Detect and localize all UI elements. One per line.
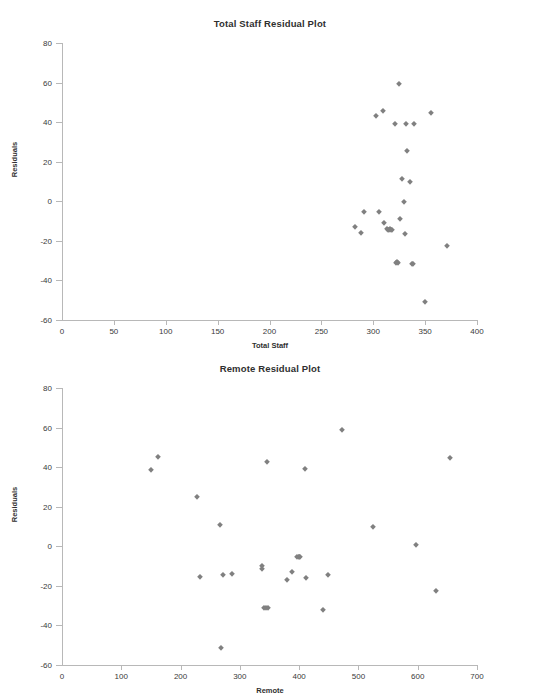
y-axis-tick-label: -40	[26, 621, 52, 630]
scatter-point	[380, 108, 386, 114]
scatter-point	[289, 569, 295, 575]
scatter-point	[396, 81, 402, 87]
scatter-point	[155, 454, 161, 460]
scatter-point	[352, 224, 358, 230]
plot-area	[62, 43, 477, 320]
scatter-point	[397, 216, 403, 222]
y-axis-tick	[56, 122, 62, 123]
x-axis-tick-label: 350	[405, 327, 445, 336]
x-axis-tick	[373, 320, 374, 325]
x-axis-tick-label: 500	[338, 672, 378, 681]
y-axis-tick	[56, 665, 62, 666]
x-axis-tick-label: 100	[101, 672, 141, 681]
chart-remote-residual-plot: Remote Residual Plot Residuals Remote -6…	[0, 345, 540, 690]
y-axis-tick	[56, 467, 62, 468]
y-axis-tick	[56, 586, 62, 587]
x-axis-tick-label: 300	[353, 327, 393, 336]
scatter-point	[220, 572, 226, 578]
x-axis-tick	[477, 320, 478, 325]
y-axis-tick	[56, 43, 62, 44]
x-axis-tick	[299, 665, 300, 670]
y-axis-tick	[56, 625, 62, 626]
scatter-point	[413, 542, 419, 548]
scatter-point	[229, 571, 235, 577]
scatter-point	[265, 605, 271, 611]
x-axis-tick	[181, 665, 182, 670]
scatter-point	[325, 572, 331, 578]
scatter-point	[377, 209, 383, 215]
x-axis-tick	[240, 665, 241, 670]
x-axis-tick-label: 400	[457, 327, 497, 336]
y-axis-tick	[56, 162, 62, 163]
scatter-point	[219, 645, 225, 651]
scatter-point	[381, 220, 387, 226]
scatter-point	[148, 467, 154, 473]
x-axis-tick-label: 250	[301, 327, 341, 336]
y-axis-tick-label: 60	[26, 78, 52, 87]
scatter-point	[433, 588, 439, 594]
x-axis-tick	[218, 320, 219, 325]
y-axis-title: Residuals	[10, 130, 19, 190]
y-axis-tick-label: -60	[26, 316, 52, 325]
y-axis-tick-label: 40	[26, 463, 52, 472]
scatter-point	[264, 459, 270, 465]
scatter-point	[411, 121, 417, 127]
scatter-point	[402, 231, 408, 237]
x-axis-tick	[358, 665, 359, 670]
x-axis-tick	[114, 320, 115, 325]
scatter-point	[422, 299, 428, 305]
x-axis-tick	[121, 665, 122, 670]
y-axis-tick	[56, 546, 62, 547]
chart-total-staff-residual-plot: Total Staff Residual Plot Residuals Tota…	[0, 0, 540, 345]
y-axis-tick-label: 0	[26, 542, 52, 551]
scatter-point	[303, 575, 309, 581]
scatter-point	[444, 243, 450, 249]
scatter-point	[447, 455, 453, 461]
scatter-point	[302, 466, 308, 472]
scatter-point	[320, 607, 326, 613]
chart-title: Total Staff Residual Plot	[0, 18, 540, 29]
x-axis-tick-label: 150	[198, 327, 238, 336]
x-axis-line	[62, 665, 478, 666]
x-axis-tick	[425, 320, 426, 325]
scatter-point	[403, 121, 409, 127]
y-axis-tick-label: 20	[26, 502, 52, 511]
y-axis-tick-label: -60	[26, 661, 52, 670]
y-axis-tick-label: 40	[26, 118, 52, 127]
y-axis-tick	[56, 320, 62, 321]
scatter-point	[395, 260, 401, 266]
scatter-point	[339, 427, 345, 433]
scatter-point	[428, 110, 434, 116]
y-axis-tick-label: 80	[26, 384, 52, 393]
y-axis-title: Residuals	[10, 475, 19, 535]
y-axis-line	[62, 43, 63, 321]
y-axis-tick-label: 20	[26, 157, 52, 166]
y-axis-tick	[56, 241, 62, 242]
x-axis-tick-label: 0	[42, 672, 82, 681]
x-axis-tick-label: 400	[279, 672, 319, 681]
x-axis-tick-label: 700	[457, 672, 497, 681]
scatter-point	[401, 199, 407, 205]
x-axis-tick	[477, 665, 478, 670]
x-axis-tick-label: 200	[161, 672, 201, 681]
scatter-point	[361, 209, 367, 215]
y-axis-tick	[56, 388, 62, 389]
y-axis-tick-label: 80	[26, 39, 52, 48]
chart-title: Remote Residual Plot	[0, 363, 540, 374]
x-axis-tick-label: 50	[94, 327, 134, 336]
x-axis-title: Remote	[0, 686, 540, 695]
scatter-point	[197, 574, 203, 580]
y-axis-tick	[56, 507, 62, 508]
x-axis-tick-label: 100	[146, 327, 186, 336]
x-axis-tick	[321, 320, 322, 325]
scatter-point	[373, 113, 379, 119]
scatter-point	[399, 176, 405, 182]
y-axis-tick-label: -20	[26, 236, 52, 245]
scatter-point	[370, 525, 376, 531]
x-axis-tick-label: 200	[250, 327, 290, 336]
scatter-point	[405, 148, 411, 154]
scatter-point	[407, 180, 413, 186]
y-axis-tick	[56, 280, 62, 281]
y-axis-tick-label: 60	[26, 423, 52, 432]
y-axis-line	[62, 388, 63, 666]
